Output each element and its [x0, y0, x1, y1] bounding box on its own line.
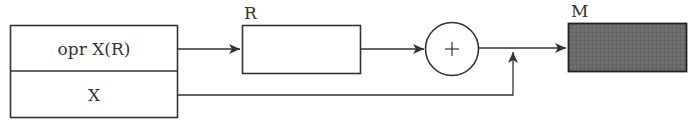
adder	[426, 23, 479, 76]
register-label: R	[244, 5, 257, 22]
register-r-box	[243, 26, 361, 74]
address-field-label: X	[88, 87, 100, 104]
memory-label: M	[571, 3, 588, 20]
memory-m-box	[569, 24, 687, 72]
opcode-field-label: opr X(R)	[58, 41, 131, 58]
